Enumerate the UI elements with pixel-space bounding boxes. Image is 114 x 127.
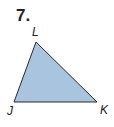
triangle-figure <box>0 0 114 127</box>
vertex-label-k: K <box>100 103 108 117</box>
vertex-label-j: J <box>7 104 13 118</box>
triangle-jkl <box>14 42 97 102</box>
vertex-label-l: L <box>32 25 39 39</box>
